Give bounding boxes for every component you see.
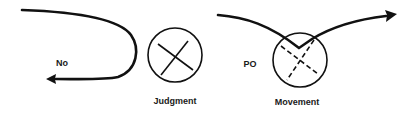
movement-symbol	[273, 33, 327, 87]
movement-path	[218, 10, 397, 48]
label-judgment: Judgment	[153, 96, 196, 106]
label-po: PO	[243, 59, 256, 69]
arrowhead-left-icon	[46, 74, 56, 84]
judgment-symbol	[148, 28, 202, 82]
label-movement: Movement	[275, 97, 320, 107]
no-u-turn-path	[22, 10, 136, 84]
label-no: No	[56, 58, 68, 68]
diagram-svg	[0, 0, 417, 114]
diagram-canvas: No Judgment PO Movement	[0, 0, 417, 114]
